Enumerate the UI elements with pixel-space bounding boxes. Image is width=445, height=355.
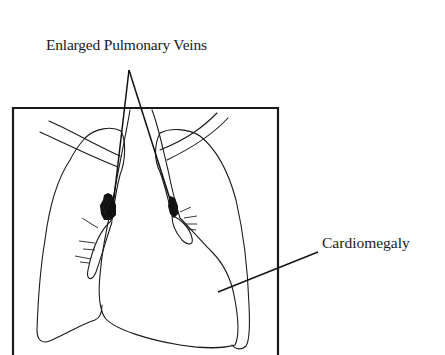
cardiomegaly-pointer [218, 252, 318, 292]
left-lung-outline [160, 130, 250, 349]
right-perihilar-markings [75, 218, 98, 263]
chest-xray-diagram: Enlarged Pulmonary Veins Cardiomegaly [0, 0, 445, 355]
diagram-drawing [0, 0, 445, 355]
right-lung-outline [37, 128, 121, 342]
veins-pointer [112, 70, 175, 215]
right-clavicle [160, 113, 228, 160]
xray-frame [13, 108, 278, 355]
